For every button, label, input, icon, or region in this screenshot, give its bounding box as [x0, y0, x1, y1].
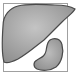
- liver-shape: [2, 4, 75, 62]
- liver-icon-graphic: [0, 0, 81, 77]
- liver-organ-icon: [0, 0, 81, 77]
